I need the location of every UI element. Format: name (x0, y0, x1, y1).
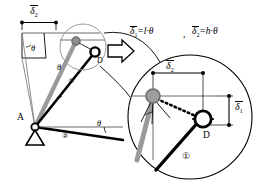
theta-label-link1: θ (57, 63, 61, 72)
callout-leader-bottom (100, 66, 130, 97)
point-d-main-label: D (97, 57, 103, 65)
delta1-detail-label: δ1 (235, 101, 243, 115)
theta-label-upper-left: θ (31, 44, 35, 53)
diagram-canvas (0, 0, 258, 185)
node-d-detail (195, 111, 211, 127)
link1-original-detail (137, 98, 153, 160)
link1-deformed-detail (156, 120, 200, 170)
equation-delta1: δ1=l·θ (130, 26, 153, 38)
point-a-label: A (17, 113, 24, 123)
equation-delta2: δ2=h·θ (192, 26, 218, 38)
figure-root: δ2 δ1=l·θ , δ2=h·θ θ θ θ A D ① ② δ2 δ1 D… (0, 0, 258, 185)
point-d-detail-label: D (203, 131, 210, 141)
hinge-node-original-detail (146, 89, 160, 103)
equation-separator: , (183, 30, 185, 40)
delta2-detail-label: δ2 (166, 60, 174, 74)
delta1-detail-dimension (210, 94, 233, 127)
link2-number-main: ② (62, 133, 68, 140)
delta2-detail-dimension (151, 71, 205, 110)
link1-number-main: ① (68, 78, 74, 85)
theta-label-link2: θ (97, 119, 101, 128)
displacement-vector-dotted (157, 99, 198, 117)
displacement-connector-main (79, 43, 92, 50)
delta2-top-label: δ2 (30, 5, 38, 19)
link1-number-detail: ① (182, 152, 190, 161)
theta-arc-link2 (104, 127, 106, 133)
link2-deformed (35, 127, 123, 140)
hinge-node-original (72, 37, 80, 45)
magnify-arrow (108, 40, 134, 62)
delta2-top-dimension (20, 21, 58, 30)
